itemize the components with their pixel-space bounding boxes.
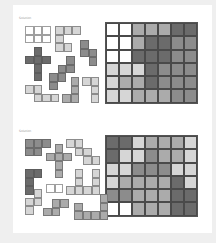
- board-cell: [184, 23, 197, 36]
- board-cell: [145, 36, 158, 49]
- board-cell: [171, 189, 184, 202]
- board-cell: [119, 149, 132, 162]
- board-cell: [132, 63, 145, 76]
- piece-square: [55, 43, 64, 52]
- piece-square: [74, 211, 83, 220]
- piece-square: [66, 139, 75, 148]
- piece-square: [25, 56, 34, 65]
- piece-square: [91, 211, 100, 220]
- piece-square: [51, 94, 60, 103]
- piece-square: [100, 203, 109, 212]
- board-cell: [171, 23, 184, 36]
- board-cell: [145, 23, 158, 36]
- puzzle-1-board: [105, 22, 198, 104]
- board-cell: [106, 76, 119, 89]
- piece-square: [25, 169, 34, 178]
- board-cell: [132, 202, 145, 215]
- board-cell: [132, 176, 145, 189]
- piece-square: [83, 186, 92, 195]
- piece-square: [83, 148, 92, 157]
- piece-square: [25, 198, 34, 207]
- piece-square: [42, 56, 51, 65]
- piece-square: [34, 56, 43, 65]
- puzzle-2-label: Solution: [19, 129, 31, 133]
- piece-square: [64, 26, 73, 35]
- board-cell: [171, 202, 184, 215]
- piece-square: [91, 77, 100, 86]
- board-cell: [145, 176, 158, 189]
- piece-square: [71, 77, 80, 86]
- piece-square: [83, 156, 92, 165]
- piece-square: [64, 43, 73, 52]
- board-cell: [119, 50, 132, 63]
- piece-square: [25, 26, 34, 35]
- piece-square: [49, 73, 58, 82]
- piece-square: [55, 170, 64, 179]
- piece-square: [34, 85, 43, 94]
- board-cell: [184, 149, 197, 162]
- piece-square: [89, 57, 98, 66]
- piece-square: [25, 206, 34, 215]
- board-cell: [158, 189, 171, 202]
- piece-square: [62, 94, 71, 103]
- piece-square: [34, 73, 43, 82]
- piece-square: [66, 186, 75, 195]
- piece-square: [55, 35, 64, 44]
- piece-square: [46, 153, 55, 162]
- board-cell: [119, 36, 132, 49]
- piece-square: [34, 198, 43, 207]
- board-cell: [106, 149, 119, 162]
- piece-square: [25, 186, 34, 195]
- piece-square: [66, 56, 75, 65]
- piece-square: [91, 94, 100, 103]
- board-cell: [106, 163, 119, 176]
- board-cell: [171, 76, 184, 89]
- board-cell: [171, 176, 184, 189]
- board-cell: [145, 136, 158, 149]
- board-cell: [145, 89, 158, 102]
- piece-square: [34, 64, 43, 73]
- board-cell: [145, 202, 158, 215]
- piece-square: [91, 86, 100, 95]
- board-cell: [106, 89, 119, 102]
- piece-square: [34, 189, 43, 198]
- piece-square: [46, 184, 55, 193]
- board-cell: [106, 23, 119, 36]
- piece-square: [55, 184, 64, 193]
- piece-square: [92, 169, 101, 178]
- board-cell: [119, 76, 132, 89]
- piece-square: [25, 139, 34, 148]
- board-cell: [171, 63, 184, 76]
- piece-square: [58, 73, 67, 82]
- board-cell: [158, 202, 171, 215]
- piece-square: [55, 144, 64, 153]
- piece-square: [100, 211, 109, 220]
- piece-square: [52, 199, 61, 208]
- piece-square: [100, 194, 109, 203]
- piece-square: [66, 65, 75, 74]
- piece-square: [42, 139, 51, 148]
- piece-square: [75, 178, 84, 187]
- piece-square: [34, 169, 43, 178]
- piece-square: [71, 86, 80, 95]
- piece-square: [34, 35, 43, 44]
- board-cell: [132, 136, 145, 149]
- board-cell: [119, 136, 132, 149]
- board-cell: [119, 189, 132, 202]
- board-cell: [106, 63, 119, 76]
- piece-square: [52, 208, 61, 217]
- piece-square: [75, 169, 84, 178]
- piece-square: [74, 203, 83, 212]
- board-cell: [158, 23, 171, 36]
- board-cell: [106, 176, 119, 189]
- piece-square: [89, 49, 98, 58]
- piece-square: [92, 156, 101, 165]
- piece-square: [34, 47, 43, 56]
- board-cell: [106, 136, 119, 149]
- piece-square: [34, 148, 43, 157]
- piece-square: [42, 94, 51, 103]
- piece-square: [34, 94, 43, 103]
- board-cell: [119, 176, 132, 189]
- board-cell: [145, 63, 158, 76]
- board-cell: [145, 189, 158, 202]
